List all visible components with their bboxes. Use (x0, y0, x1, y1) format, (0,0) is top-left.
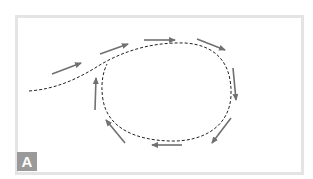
flow-diagram (0, 0, 313, 179)
flow-arrow-icon (52, 63, 81, 74)
flow-arrow-icon (106, 120, 125, 143)
flow-arrow-icon (100, 44, 128, 54)
panel-label: A (17, 152, 37, 171)
dashed-trajectory-path (29, 43, 231, 141)
flow-arrow-icon (197, 39, 225, 50)
flow-arrow-icon (95, 78, 96, 110)
flow-arrows (52, 39, 236, 145)
flow-arrow-icon (233, 68, 236, 100)
